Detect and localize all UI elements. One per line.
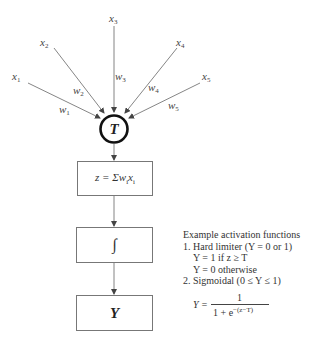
notes-item-hard-limiter: 1. Hard limiter (Y = 0 or 1) <box>183 241 300 253</box>
notes-item-sigmoidal: 2. Sigmoidal (0 ≤ Y ≤ 1) <box>183 275 300 287</box>
activation-box: ∫ <box>76 227 153 263</box>
weight-label-w3: w3 <box>115 71 126 84</box>
input-label-x5: x5 <box>202 71 210 84</box>
notes-hard-limiter-rule1: Y = 1 if z ≥ T <box>183 252 300 264</box>
notes-heading: Example activation functions <box>183 229 300 241</box>
weight-label-w4: w4 <box>148 82 159 95</box>
output-label: Y <box>110 305 119 322</box>
input-label-x4: x4 <box>176 37 184 50</box>
output-box: Y <box>76 295 153 331</box>
activation-notes: Example activation functions 1. Hard lim… <box>183 229 300 287</box>
weight-label-w2: w2 <box>73 85 84 98</box>
edge-x5 <box>129 83 200 118</box>
sigmoid-numerator: 1 <box>237 292 242 303</box>
input-label-x1: x1 <box>12 71 20 84</box>
integral-symbol: ∫ <box>112 236 116 254</box>
fraction-bar <box>211 304 269 305</box>
notes-hard-limiter-rule2: Y = 0 otherwise <box>183 264 300 276</box>
sigmoid-lhs: Y = <box>193 299 208 310</box>
weight-label-w1: w1 <box>59 104 70 117</box>
neuron-diagram-lines <box>0 0 321 349</box>
weight-label-w5: w5 <box>168 100 179 113</box>
input-label-x3: x3 <box>109 13 117 26</box>
summation-box: z = Σwixi <box>77 161 153 196</box>
threshold-node-label: T <box>100 121 128 138</box>
summation-formula: z = Σwixi <box>95 171 135 186</box>
sigmoid-denominator: 1 + e−(z−T) <box>213 306 253 318</box>
input-label-x2: x2 <box>40 37 48 50</box>
